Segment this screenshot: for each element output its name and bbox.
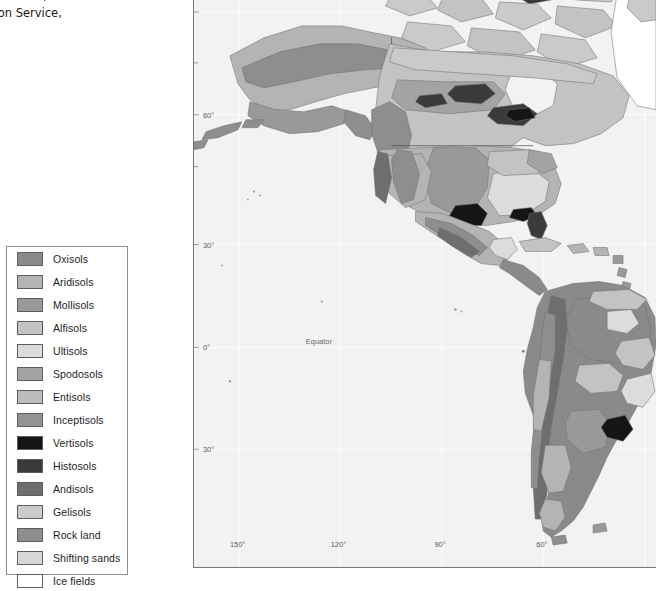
legend-item-andisols: Andisols xyxy=(7,477,127,500)
legend-swatch xyxy=(17,574,43,588)
equator-label: Equator xyxy=(306,337,333,346)
legend-swatch xyxy=(17,436,43,450)
legend-label: Mollisols xyxy=(53,299,94,311)
map-legend: OxisolsAridisolsMollisolsAlfisolsUltisol… xyxy=(6,246,128,575)
lon-label-150w: 150° xyxy=(230,540,245,549)
legend-label: Shifting sands xyxy=(53,552,120,564)
legend-item-mollisols: Mollisols xyxy=(7,293,127,316)
legend-item-shifting-sands: Shifting sands xyxy=(7,546,127,569)
legend-swatch xyxy=(17,459,43,473)
legend-label: Vertisols xyxy=(53,437,94,449)
legend-swatch xyxy=(17,298,43,312)
legend-swatch xyxy=(17,413,43,427)
legend-swatch xyxy=(17,275,43,289)
legend-swatch xyxy=(17,252,43,266)
figure-caption: il Resources Staff, Natural onservation … xyxy=(0,0,174,39)
legend-swatch xyxy=(17,528,43,542)
lat-label-30n: 30° xyxy=(203,241,214,250)
legend-item-vertisols: Vertisols xyxy=(7,431,127,454)
lon-label-120w: 120° xyxy=(331,540,346,549)
legend-label: Rock land xyxy=(53,529,101,541)
legend-label: Aridisols xyxy=(53,276,94,288)
legend-item-oxisols: Oxisols xyxy=(7,247,127,270)
legend-item-ultisols: Ultisols xyxy=(7,339,127,362)
lat-label-60n: 60° xyxy=(203,111,214,120)
legend-swatch xyxy=(17,482,43,496)
legend-label: Ice fields xyxy=(53,575,95,587)
legend-swatch xyxy=(17,505,43,519)
legend-swatch xyxy=(17,344,43,358)
legend-label: Andisols xyxy=(53,483,94,495)
legend-item-aridisols: Aridisols xyxy=(7,270,127,293)
legend-item-inceptisols: Inceptisols xyxy=(7,408,127,431)
legend-item-entisols: Entisols xyxy=(7,385,127,408)
legend-item-rock-land: Rock land xyxy=(7,523,127,546)
legend-swatch xyxy=(17,321,43,335)
legend-label: Gelisols xyxy=(53,506,91,518)
legend-label: Oxisols xyxy=(53,253,88,265)
legend-swatch xyxy=(17,367,43,381)
legend-item-histosols: Histosols xyxy=(7,454,127,477)
lon-label-90w: 90° xyxy=(434,540,445,549)
lat-label-30s: 30° xyxy=(203,445,214,454)
legend-item-ice-fields: Ice fields xyxy=(7,569,127,591)
map-canvas: 60° 30° 0° 30° 150° 120° 90° 60° Equator xyxy=(194,0,656,567)
lat-label-0: 0° xyxy=(203,343,210,352)
legend-item-gelisols: Gelisols xyxy=(7,500,127,523)
legend-label: Alfisols xyxy=(53,322,87,334)
soil-taxonomy-map: 60° 30° 0° 30° 150° 120° 90° 60° Equator xyxy=(193,0,656,568)
legend-label: Histosols xyxy=(53,460,97,472)
legend-label: Inceptisols xyxy=(53,414,104,426)
legend-swatch xyxy=(17,390,43,404)
legend-label: Entisols xyxy=(53,391,91,403)
legend-item-alfisols: Alfisols xyxy=(7,316,127,339)
legend-label: Spodosols xyxy=(53,368,103,380)
lon-label-60w: 60° xyxy=(536,540,547,549)
legend-label: Ultisols xyxy=(53,345,88,357)
legend-swatch xyxy=(17,551,43,565)
legend-item-spodosols: Spodosols xyxy=(7,362,127,385)
